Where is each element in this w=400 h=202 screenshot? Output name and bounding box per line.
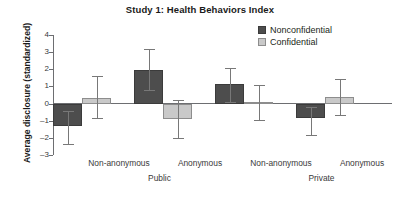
x-axis-tick-labels: Non-anonymousAnonymousNon-anonymousAnony… bbox=[0, 158, 400, 172]
y-tick-mark bbox=[49, 155, 53, 156]
error-bar-cap-lower bbox=[306, 135, 317, 136]
error-bar-cap-lower bbox=[254, 120, 265, 121]
x-tick-label: Anonymous bbox=[317, 158, 400, 168]
error-bar-cap-lower bbox=[173, 138, 184, 139]
error-bar-stem bbox=[340, 79, 341, 115]
legend-label: Confidential bbox=[270, 37, 318, 47]
error-bar-stem bbox=[97, 76, 98, 118]
error-bar-cap-lower bbox=[63, 144, 74, 145]
y-tick-mark bbox=[49, 35, 53, 36]
x-tick-label: Anonymous bbox=[155, 158, 245, 168]
error-bar-cap-lower bbox=[225, 102, 236, 103]
legend-label: Nonconfidential bbox=[270, 25, 332, 35]
error-bar-cap-upper bbox=[306, 107, 317, 108]
x-tick-label: Non-anonymous bbox=[236, 158, 326, 168]
error-bar-cap-upper bbox=[144, 49, 155, 50]
x-axis-group-labels: PublicPrivate bbox=[0, 173, 400, 187]
error-bar-cap-upper bbox=[335, 79, 346, 80]
y-tick-label: 3 bbox=[33, 48, 49, 56]
error-bar-stem bbox=[178, 100, 179, 137]
error-bar-stem bbox=[311, 107, 312, 135]
error-bar-cap-upper bbox=[173, 100, 184, 101]
error-bar-cap-lower bbox=[144, 90, 155, 91]
plot-area bbox=[53, 35, 392, 155]
legend-item-nonconfidential: Nonconfidential bbox=[258, 24, 332, 35]
legend-swatch-icon bbox=[258, 38, 266, 46]
x-group-label: Private bbox=[277, 173, 367, 183]
error-bar-cap-upper bbox=[254, 85, 265, 86]
y-tick-label: –1 bbox=[33, 117, 49, 125]
error-bar-stem bbox=[149, 49, 150, 90]
legend-item-confidential: Confidential bbox=[258, 36, 332, 47]
legend-swatch-icon bbox=[258, 26, 266, 34]
y-tick-label: 2 bbox=[33, 65, 49, 73]
error-bar-stem bbox=[259, 85, 260, 121]
y-tick-mark bbox=[49, 69, 53, 70]
error-bar-cap-lower bbox=[335, 115, 346, 116]
error-bar-cap-upper bbox=[92, 76, 103, 77]
x-tick-label: Non-anonymous bbox=[74, 158, 164, 168]
chart-figure: Study 1: Health Behaviors Index Average … bbox=[0, 0, 400, 202]
y-axis-tick-labels: 43210–1–2–3 bbox=[31, 35, 49, 155]
x-group-label: Public bbox=[115, 173, 205, 183]
y-tick-mark bbox=[49, 86, 53, 87]
y-tick-label: 1 bbox=[33, 82, 49, 90]
error-bar-stem bbox=[68, 111, 69, 145]
y-tick-mark bbox=[49, 52, 53, 53]
y-tick-label: –2 bbox=[33, 134, 49, 142]
error-bar-cap-upper bbox=[225, 68, 236, 69]
y-axis-line bbox=[53, 35, 54, 155]
error-bar-stem bbox=[230, 68, 231, 102]
y-tick-mark bbox=[49, 138, 53, 139]
chart-legend: NonconfidentialConfidential bbox=[258, 24, 332, 48]
y-tick-label: 0 bbox=[33, 100, 49, 108]
chart-title: Study 1: Health Behaviors Index bbox=[0, 4, 400, 15]
y-tick-label: 4 bbox=[33, 31, 49, 39]
error-bar-cap-upper bbox=[63, 111, 74, 112]
error-bar-cap-lower bbox=[92, 118, 103, 119]
